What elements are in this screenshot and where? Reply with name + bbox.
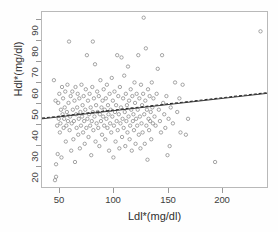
y-axis-title: Hdl*(mg/dl) [12,19,24,119]
x-tick-mark-150 [168,188,169,193]
x-axis-title: Ldl*(mg/dl) [41,210,268,222]
regression-lines-layer [42,12,267,187]
scatter-plot-figure: Hdl*(mg/dl) 90 80 70 60 50 40 30 20 50 1… [0,0,278,232]
regression-line-dashed [42,93,267,118]
x-tick-mark-100 [113,188,114,193]
x-tick-mark-200 [222,188,223,193]
x-tick-label-100: 100 [96,194,130,205]
x-tick-label-150: 150 [151,194,185,205]
regression-line-solid [42,93,267,118]
x-tick-label-50: 50 [42,194,76,205]
x-tick-label-200: 200 [205,194,239,205]
y-tick-label-20: 20 [29,166,40,190]
x-tick-mark-50 [59,188,60,193]
plot-area [41,11,268,188]
